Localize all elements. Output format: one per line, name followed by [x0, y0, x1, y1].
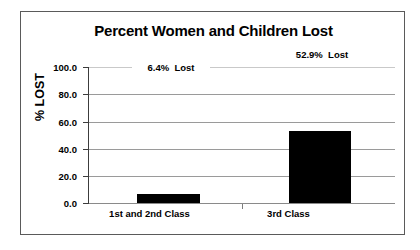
plot-area: 6.4% Lost 52.9% Lost [89, 67, 395, 203]
gridline-60 [89, 122, 395, 123]
bar-label-3rd-class: 52.9% Lost [281, 49, 363, 60]
y-tick-label-100: 100.0 [31, 62, 77, 73]
x-axis-label-1st-and-2nd-class: 1st and 2nd Class [73, 208, 226, 219]
chart-container: Percent Women and Children Lost % LOST 1… [20, 11, 405, 235]
y-tick-label-0: 0.0 [31, 198, 77, 209]
y-tick-label-20: 20.0 [31, 171, 77, 182]
bar-label-1st-and-2nd-class: 6.4% Lost [132, 62, 210, 73]
y-tick-label-80: 80.0 [31, 89, 77, 100]
gridline-80 [89, 94, 395, 95]
y-tick-label-60: 60.0 [31, 117, 77, 128]
bar-3rd-class[interactable] [289, 131, 351, 203]
chart-title: Percent Women and Children Lost [21, 22, 406, 39]
bar-1st-and-2nd-class[interactable] [137, 194, 200, 203]
x-axis-label-3rd-class: 3rd Class [217, 208, 360, 219]
y-tick-label-40: 40.0 [31, 144, 77, 155]
